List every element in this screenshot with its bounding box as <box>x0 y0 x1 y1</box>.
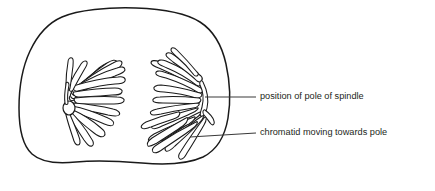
labels-group: position of pole of spindle chromatid mo… <box>260 91 387 137</box>
label-pole-of-spindle: position of pole of spindle <box>260 91 364 101</box>
diagram-canvas: position of pole of spindle chromatid mo… <box>0 0 435 191</box>
label-chromatid-moving-towards-pole: chromatid moving towards pole <box>260 127 387 137</box>
chromatid-left-7 <box>74 97 124 104</box>
anaphase-diagram-svg: position of pole of spindle chromatid mo… <box>0 0 435 191</box>
